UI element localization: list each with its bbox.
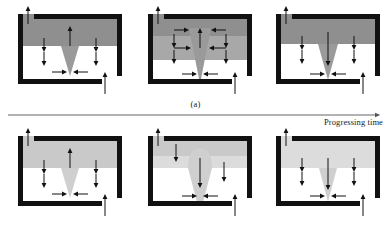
panel-b3	[266, 124, 391, 219]
panel-row-b: (b)	[0, 124, 391, 228]
sublabel-a: (a)	[0, 99, 391, 109]
panel-a3	[266, 2, 391, 97]
panel-a1	[8, 2, 133, 97]
panel-row-a: (a)	[0, 2, 391, 106]
panel-a2	[138, 2, 263, 97]
figure-root: (a) Progressing time	[0, 0, 391, 232]
panel-b2	[138, 124, 263, 219]
panel-b1	[8, 124, 133, 219]
